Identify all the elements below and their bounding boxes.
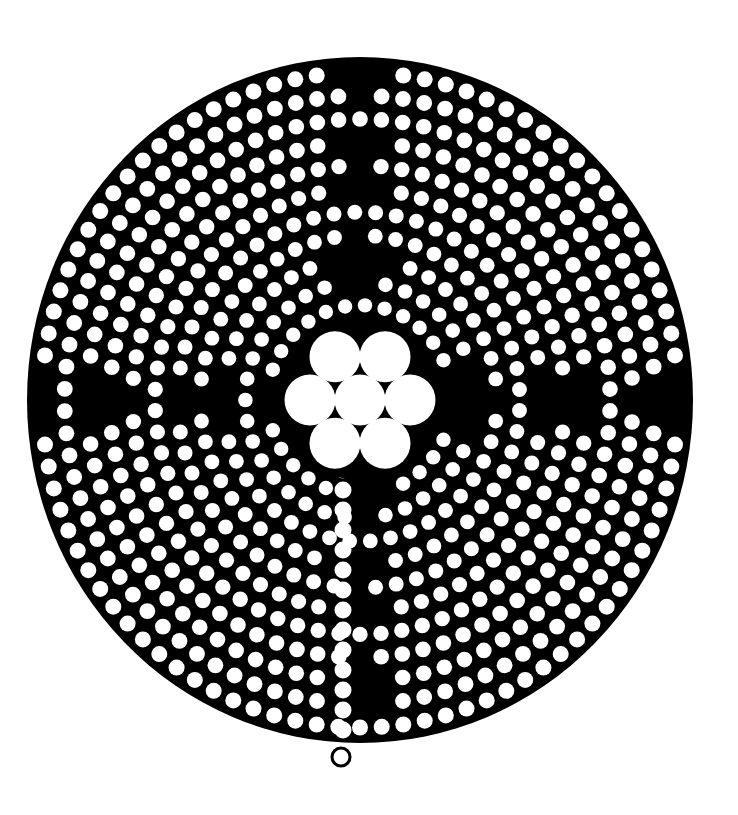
labyrinth-dot (624, 511, 640, 527)
labyrinth-dot (210, 632, 226, 648)
labyrinth-dot (433, 198, 448, 213)
labyrinth-dot (159, 194, 175, 210)
labyrinth-dot (87, 327, 103, 343)
labyrinth-dot (426, 336, 440, 350)
labyrinth-dot (498, 101, 514, 117)
labyrinth-dot (206, 683, 222, 699)
labyrinth-dot (66, 315, 82, 331)
labyrinth-dot (604, 234, 620, 250)
labyrinth-dot (92, 203, 108, 219)
labyrinth-dot (80, 222, 96, 238)
labyrinth-dot (555, 424, 570, 439)
labyrinth-dot (281, 300, 296, 315)
entrance-dot (332, 748, 350, 766)
labyrinth-dot (415, 143, 431, 159)
labyrinth-dot (331, 89, 347, 105)
labyrinth-dot (632, 490, 648, 506)
labyrinth-dot (535, 124, 551, 140)
labyrinth-dot (591, 468, 607, 484)
labyrinth-dot (569, 153, 585, 169)
entrance-path-dot (335, 602, 352, 619)
labyrinth-dot (490, 205, 505, 220)
labyrinth-dot (120, 245, 136, 261)
entrance-path-dot (335, 662, 352, 679)
labyrinth-dot (416, 665, 432, 681)
labyrinth-dot (624, 414, 640, 430)
labyrinth-dot (667, 437, 683, 453)
labyrinth-dot (319, 305, 333, 319)
labyrinth-dot (565, 257, 581, 273)
labyrinth-dot (388, 232, 403, 247)
labyrinth-dot (432, 478, 447, 493)
labyrinth-dot (658, 480, 674, 496)
labyrinth-dot (602, 403, 618, 419)
labyrinth-dot (331, 112, 347, 128)
labyrinth-dot (120, 539, 136, 555)
labyrinth-dot (427, 247, 442, 262)
labyrinth-dot (306, 574, 321, 589)
labyrinth-dot (585, 245, 601, 261)
labyrinth-dot (646, 425, 662, 441)
labyrinth-dot (638, 469, 654, 485)
labyrinth-dot (288, 689, 304, 705)
labyrinth-dot (195, 192, 211, 208)
labyrinth-dot (309, 91, 325, 107)
labyrinth-dot (289, 143, 305, 159)
labyrinth-dot (89, 253, 105, 269)
labyrinth-dot (373, 649, 389, 665)
labyrinth-dot (272, 198, 287, 213)
labyrinth-dot (62, 447, 78, 463)
labyrinth-dot (476, 142, 492, 158)
labyrinth-dot (545, 591, 561, 607)
labyrinth-dot (600, 425, 616, 441)
labyrinth-dot (497, 657, 513, 673)
labyrinth-dot (266, 707, 282, 723)
labyrinth-dot (460, 514, 475, 529)
labyrinth-dot (444, 258, 459, 273)
labyrinth-dot (536, 485, 551, 500)
labyrinth-dot (317, 280, 332, 295)
labyrinth-dot (624, 222, 640, 238)
labyrinth-dot (599, 185, 615, 201)
labyrinth-dot (571, 457, 586, 472)
labyrinth-dot (298, 497, 313, 512)
labyrinth-dot (383, 530, 398, 545)
labyrinth-dot (455, 157, 471, 173)
labyrinth-dot (210, 153, 226, 169)
labyrinth-dot (310, 670, 326, 686)
labyrinth-dot (584, 616, 600, 632)
labyrinth-dot (145, 210, 161, 226)
labyrinth-dot (565, 527, 581, 543)
labyrinth-dot (515, 263, 530, 278)
labyrinth-dot (168, 299, 183, 314)
labyrinth-dot (368, 580, 383, 595)
labyrinth-dot (129, 508, 145, 524)
labyrinth-dot (378, 508, 393, 523)
labyrinth-dot (576, 349, 591, 364)
labyrinth-dot (213, 473, 228, 488)
labyrinth-dot (459, 83, 475, 99)
labyrinth-dot (126, 371, 141, 386)
labyrinth-dot (133, 328, 148, 343)
labyrinth-dot (126, 414, 141, 429)
labyrinth-dot (534, 251, 549, 266)
labyrinth-dot (545, 319, 560, 334)
labyrinth-dot (452, 208, 467, 223)
labyrinth-dot (396, 309, 410, 323)
labyrinth-dot (288, 543, 303, 558)
labyrinth-dot (576, 276, 592, 292)
labyrinth-dot (435, 174, 450, 189)
labyrinth-dot (187, 672, 203, 688)
labyrinth-dot (215, 205, 230, 220)
labyrinth-dot (59, 425, 75, 441)
labyrinth-dot (634, 543, 650, 559)
labyrinth-dot (286, 458, 300, 472)
labyrinth-dot (185, 319, 200, 334)
labyrinth-dot (504, 341, 519, 356)
labyrinth-dot (394, 162, 409, 177)
labyrinth-dot (427, 539, 442, 554)
labyrinth-dot (571, 328, 586, 343)
labyrinth-dot (46, 480, 62, 496)
labyrinth-dot (492, 179, 508, 195)
labyrinth-dot (438, 282, 453, 297)
